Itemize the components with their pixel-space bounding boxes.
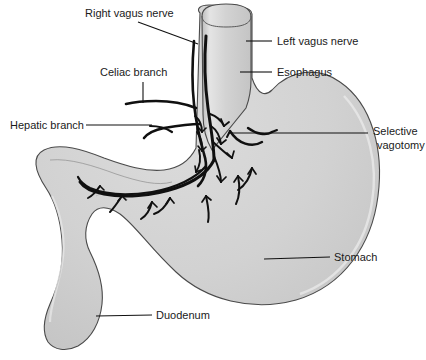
stomach-vagotomy-diagram: Right vagus nerve Celiac branch Hepatic … — [0, 0, 426, 360]
label-esophagus: Esophagus — [277, 66, 333, 78]
label-celiac-branch: Celiac branch — [100, 66, 167, 78]
label-left-vagus-nerve: Left vagus nerve — [277, 35, 358, 47]
label-selective-vagotomy-line1: Selective — [373, 125, 418, 137]
leader-duodenum — [96, 315, 152, 316]
anatomical-figure: Right vagus nerve Celiac branch Hepatic … — [0, 0, 426, 360]
label-stomach: Stomach — [334, 251, 377, 263]
label-selective-vagotomy-line2: vagotomy — [377, 139, 425, 151]
label-hepatic-branch: Hepatic branch — [10, 119, 84, 131]
organ-group — [36, 4, 380, 349]
leader-right-vagus-nerve — [138, 22, 198, 44]
label-duodenum: Duodenum — [156, 309, 210, 321]
label-right-vagus-nerve: Right vagus nerve — [85, 7, 174, 19]
celiac-branch-nerve — [126, 101, 196, 108]
